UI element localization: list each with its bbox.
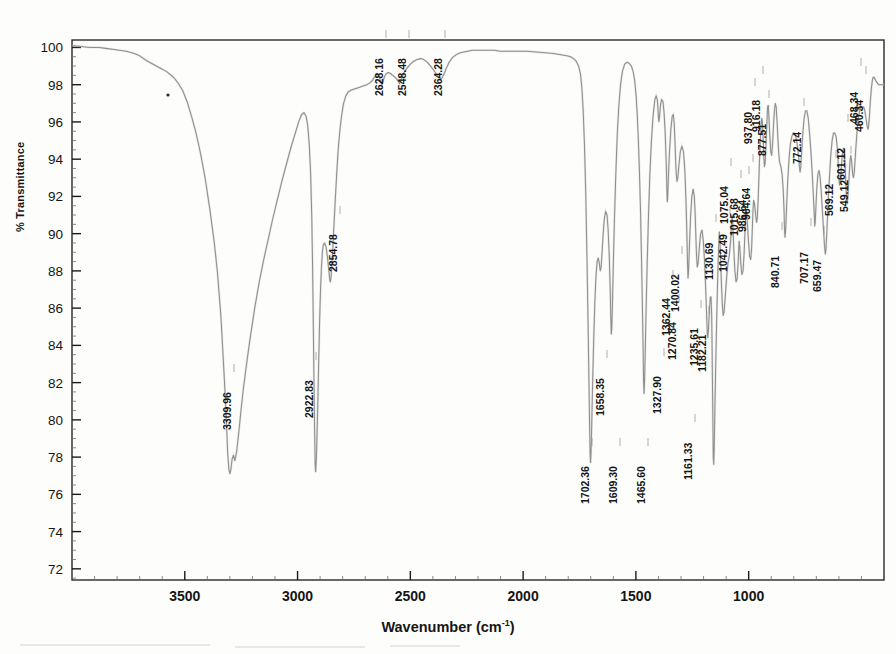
peak-label-text: 2364.28 (432, 58, 444, 96)
peak-label: 916.18 (750, 66, 763, 132)
peak-label: 1658.35 (594, 350, 607, 416)
peak-label-text: 2922.83 (303, 380, 315, 418)
peak-label: 659.47 (811, 226, 824, 292)
y-axis-title: % Transmittance (14, 142, 26, 232)
x-axis-title-paren: ) (510, 619, 515, 635)
y-axis-tick-label: 88 (48, 264, 63, 279)
peak-label-text: 1658.35 (594, 378, 606, 416)
x-axis-title: Wavenumber (cm-1) (0, 618, 896, 635)
peak-label-text: 1042.49 (717, 234, 729, 272)
spectrum-trace (72, 46, 884, 474)
peak-label-text: 1130.69 (703, 242, 715, 280)
peak-label: 3309.96 (221, 364, 234, 430)
x-axis-tick-label: 3500 (169, 588, 200, 604)
y-axis-tick-label: 72 (48, 562, 63, 577)
y-axis-tick-label: 80 (48, 413, 63, 428)
x-axis-title-exponent: -1 (502, 618, 510, 628)
peak-label-text: 964.64 (740, 188, 752, 220)
peak-label: 964.64 (740, 154, 753, 220)
y-axis-tick-label: 100 (40, 40, 63, 55)
y-axis-tick-label: 92 (48, 189, 63, 204)
y-axis-tick-label: 82 (48, 376, 63, 391)
peak-label-text: 1609.30 (607, 466, 619, 504)
peak-label-text: 659.47 (811, 260, 823, 292)
peak-label: 1327.90 (651, 348, 664, 414)
spectrum-trace-ghost (72, 46, 884, 474)
scan-artifact-1 (20, 644, 210, 646)
peak-label-text: 1465.60 (635, 466, 647, 504)
y-axis-tick-label: 94 (48, 152, 64, 167)
peak-label: 1161.33 (682, 414, 695, 480)
peak-label-text: 2854.78 (327, 234, 339, 272)
x-axis-tick-label: 2000 (508, 588, 539, 604)
peak-label-text: 2548.48 (396, 58, 408, 96)
x-axis-tick-label: 1500 (620, 588, 651, 604)
peak-label-text: 601.12 (835, 148, 847, 180)
scan-artifact-2 (235, 646, 365, 648)
peak-label-text: 877.51 (756, 124, 768, 156)
scan-artifact-3 (390, 645, 460, 647)
peak-label-text: 2628.16 (373, 58, 385, 96)
peak-label: 1130.69 (703, 214, 716, 280)
y-axis-tick-label: 78 (48, 450, 63, 465)
peak-label-text: 1182.21 (696, 334, 708, 372)
y-axis-tick-label: 90 (48, 227, 63, 242)
peak-label: 840.71 (769, 222, 782, 288)
scan-speck (166, 93, 169, 96)
peak-label: 1465.60 (635, 438, 648, 504)
peak-label-text: 3309.96 (221, 392, 233, 430)
y-axis-tick-label: 98 (48, 78, 63, 93)
x-axis-title-text: Wavenumber (cm (381, 619, 501, 635)
y-axis-tick-label: 96 (48, 115, 63, 130)
x-axis-tick-label: 3000 (282, 588, 313, 604)
spectrum-plot-area: 7274767880828486889092949698100350030002… (0, 0, 896, 654)
peak-label-text: 840.71 (769, 256, 781, 288)
peak-label-text: 460.34 (853, 100, 865, 132)
y-axis-tick-label: 86 (48, 301, 63, 316)
peak-label-text: 1702.36 (579, 466, 591, 504)
y-axis-tick-label: 74 (48, 525, 64, 540)
peak-label-text: 707.17 (798, 252, 810, 284)
y-axis-tick-label: 76 (48, 487, 63, 502)
x-axis-tick-label: 1000 (733, 588, 764, 604)
peak-label-text: 549.12 (838, 180, 850, 212)
ftir-spectrum-figure: 7274767880828486889092949698100350030002… (0, 0, 896, 654)
y-axis-tick-label: 84 (48, 338, 64, 353)
peak-label: 707.17 (798, 218, 811, 284)
peak-label-text: 1327.90 (651, 376, 663, 414)
peak-label-text: 1161.33 (682, 442, 694, 480)
peak-label-text: 569.12 (823, 184, 835, 216)
x-axis-tick-label: 2500 (395, 588, 426, 604)
peak-label-text: 772.14 (791, 132, 803, 164)
peak-label-text: 1270.84 (666, 322, 678, 360)
peak-label: 1609.30 (607, 438, 620, 504)
